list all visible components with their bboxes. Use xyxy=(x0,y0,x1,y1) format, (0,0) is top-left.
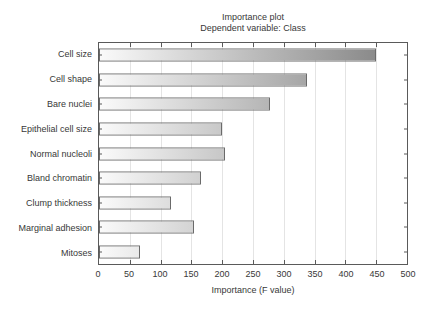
x-tick-mark xyxy=(191,43,192,47)
bar-fill xyxy=(100,148,225,159)
gridline xyxy=(315,43,316,264)
bar-fill xyxy=(100,74,307,85)
category-tick-mark xyxy=(99,153,102,154)
chart-subtitle: Dependent variable: Class xyxy=(98,23,408,34)
category-tick-mark xyxy=(404,128,407,129)
x-axis-tick-labels: 050100150200250300350400450500 xyxy=(98,269,408,280)
category-tick-mark xyxy=(404,104,407,105)
x-tick-mark xyxy=(345,43,346,47)
x-tick-label: 450 xyxy=(369,269,384,279)
category-label: Cell size xyxy=(58,49,92,59)
category-tick-mark xyxy=(404,202,407,203)
x-tick-mark xyxy=(222,260,223,264)
x-tick-mark xyxy=(222,43,223,47)
gridline xyxy=(376,43,377,264)
bar-cell-shape xyxy=(99,73,307,86)
x-tick-mark xyxy=(315,260,316,264)
bar-fill xyxy=(100,222,194,233)
x-tick-label: 50 xyxy=(124,269,134,279)
x-tick-mark xyxy=(284,43,285,47)
category-label: Marginal adhesion xyxy=(18,223,92,233)
category-tick-mark xyxy=(99,55,102,56)
x-tick-mark xyxy=(376,43,377,47)
x-tick-mark xyxy=(253,43,254,47)
x-tick-label: 400 xyxy=(338,269,353,279)
x-tick-label: 500 xyxy=(400,269,415,279)
category-tick-mark xyxy=(99,251,102,252)
bar-cell-size xyxy=(99,49,376,62)
bar-epithelial-cell-size xyxy=(99,122,222,135)
bar-marginal-adhesion xyxy=(99,221,194,234)
bar-bland-chromatin xyxy=(99,172,201,185)
category-tick-mark xyxy=(404,178,407,179)
x-tick-label: 200 xyxy=(214,269,229,279)
category-tick-mark xyxy=(404,227,407,228)
gridline xyxy=(345,43,346,264)
x-tick-label: 250 xyxy=(245,269,260,279)
category-tick-mark xyxy=(99,79,102,80)
x-tick-mark xyxy=(345,260,346,264)
x-tick-mark xyxy=(315,43,316,47)
chart-title: Importance plot xyxy=(98,12,408,23)
category-label: Normal nucleoli xyxy=(30,149,92,159)
x-tick-label: 300 xyxy=(276,269,291,279)
x-tick-mark xyxy=(130,43,131,47)
x-tick-label: 0 xyxy=(95,269,100,279)
category-tick-mark xyxy=(404,251,407,252)
x-tick-mark xyxy=(191,260,192,264)
bar-bare-nuclei xyxy=(99,98,270,111)
category-tick-mark xyxy=(404,153,407,154)
x-tick-label: 350 xyxy=(307,269,322,279)
x-tick-mark xyxy=(253,260,254,264)
plot-area xyxy=(98,42,408,265)
x-tick-label: 100 xyxy=(152,269,167,279)
bar-fill xyxy=(100,246,140,257)
category-tick-mark xyxy=(99,128,102,129)
bar-mitoses xyxy=(99,245,140,258)
category-label: Mitoses xyxy=(61,248,92,258)
bar-fill xyxy=(100,50,376,61)
x-tick-mark xyxy=(284,260,285,264)
x-tick-mark xyxy=(376,260,377,264)
x-tick-mark xyxy=(161,43,162,47)
category-label: Bare nuclei xyxy=(47,99,92,109)
category-tick-mark xyxy=(99,227,102,228)
category-tick-mark xyxy=(99,202,102,203)
category-label: Cell shape xyxy=(49,74,92,84)
bar-fill xyxy=(100,173,201,184)
category-tick-mark xyxy=(99,104,102,105)
category-label: Epithelial cell size xyxy=(21,124,92,134)
category-tick-mark xyxy=(404,55,407,56)
category-axis-labels: Cell sizeCell shapeBare nucleiEpithelial… xyxy=(0,42,92,265)
category-label: Bland chromatin xyxy=(27,173,92,183)
importance-plot-figure: Importance plot Dependent variable: Clas… xyxy=(0,0,428,310)
category-label: Clump thickness xyxy=(26,198,92,208)
bar-fill xyxy=(100,99,270,110)
bar-normal-nucleoli xyxy=(99,147,225,160)
x-tick-label: 150 xyxy=(183,269,198,279)
x-tick-mark xyxy=(161,260,162,264)
x-tick-mark xyxy=(130,260,131,264)
x-axis-title: Importance (F value) xyxy=(98,285,408,295)
bar-clump-thickness xyxy=(99,196,171,209)
bar-fill xyxy=(100,123,222,134)
category-tick-mark xyxy=(404,79,407,80)
category-tick-mark xyxy=(99,178,102,179)
bar-fill xyxy=(100,197,171,208)
chart-title-block: Importance plot Dependent variable: Clas… xyxy=(98,12,408,34)
